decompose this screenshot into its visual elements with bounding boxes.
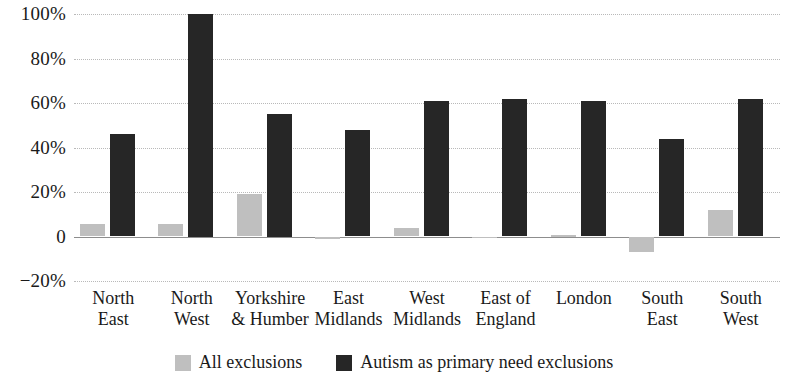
x-axis-category-label: London [545,288,623,309]
bar-group [309,8,387,288]
bar-autism-exclusions [424,101,449,237]
chart-legend: All exclusionsAutism as primary need exc… [0,352,788,373]
legend-label: All exclusions [199,352,303,373]
bar-group [702,8,780,288]
legend-label: Autism as primary need exclusions [360,352,613,373]
legend-swatch-icon [336,355,352,371]
bar-all-exclusions [551,235,576,237]
x-axis-category-label: North East [74,288,152,330]
y-axis-tick-label: −20% [0,271,66,290]
bar-all-exclusions [315,237,340,239]
x-axis-category-label: East Midlands [309,288,387,330]
bar-autism-exclusions [267,114,292,236]
bar-autism-exclusions [659,139,684,237]
bar-all-exclusions [629,237,654,253]
bar-all-exclusions [237,194,262,236]
x-axis-category-label: East of England [466,288,544,330]
x-axis-category-label: Yorkshire & Humber [231,288,309,330]
bar-all-exclusions [158,224,183,236]
legend-item: Autism as primary need exclusions [336,352,613,373]
bar-group [152,8,230,288]
y-axis-tick-label: 20% [0,182,66,201]
bar-group [388,8,466,288]
bar-groups [74,8,780,288]
bar-autism-exclusions [188,14,213,237]
y-axis-tick-label: 80% [0,49,66,68]
bar-autism-exclusions [110,134,135,236]
y-axis-tick-label: 60% [0,93,66,112]
x-axis-category-label: North West [152,288,230,330]
bar-autism-exclusions [738,99,763,237]
bar-all-exclusions [394,228,419,237]
x-axis-category-label: West Midlands [388,288,466,330]
y-axis-tick-label: 0 [0,227,66,246]
bar-group [74,8,152,288]
legend-swatch-icon [175,355,191,371]
legend-item: All exclusions [175,352,303,373]
y-axis-tick-label: 100% [0,4,66,23]
bar-all-exclusions [708,210,733,237]
x-axis-category-label: South East [623,288,701,330]
bar-group [545,8,623,288]
y-axis-tick-label: 40% [0,138,66,157]
x-axis-category-label: South West [702,288,780,330]
bar-autism-exclusions [345,130,370,237]
bar-group [231,8,309,288]
bar-group [623,8,701,288]
x-axis-labels: North EastNorth WestYorkshire & HumberEa… [74,288,780,338]
bar-all-exclusions [472,237,497,239]
bar-all-exclusions [80,224,105,236]
bar-autism-exclusions [581,101,606,237]
bar-group [466,8,544,288]
bar-autism-exclusions [502,99,527,237]
bar-chart: 100%80%60%40%20%0−20% North EastNorth We… [0,0,788,388]
